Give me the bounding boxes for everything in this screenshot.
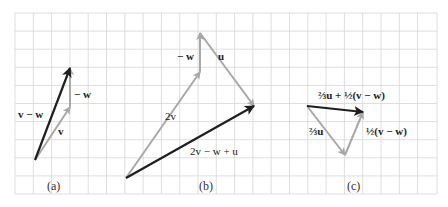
label-u: u [218,50,224,62]
label-neg-w: − w [74,88,91,100]
label-two-thirds-u: ⅔u [309,125,323,137]
label-neg-w: − w [177,50,194,62]
label-2v: 2v [165,110,177,122]
vector-2v [126,72,200,178]
vector-combination [307,106,363,112]
caption-b: (b) [199,179,213,193]
grid [15,13,437,194]
vector-diagram: − w v − w v (a) − w u 2v 2v − w + u (b) … [0,0,448,207]
label-v-minus-w: v − w [18,108,43,120]
label-combination: ⅔u + ½(v − w) [318,89,385,102]
panel-a: − w v − w v (a) [18,68,91,193]
label-half-v-minus-w: ½(v − w) [366,125,407,138]
panel-c: ⅔u + ½(v − w) ⅔u ½(v − w) (c) [307,89,407,193]
caption-a: (a) [47,179,60,193]
label-sum: 2v − w + u [190,145,238,157]
vector-u [200,33,254,106]
vector-half-v-minus-w [345,112,363,155]
caption-c: (c) [347,179,360,193]
label-v: v [58,125,64,137]
